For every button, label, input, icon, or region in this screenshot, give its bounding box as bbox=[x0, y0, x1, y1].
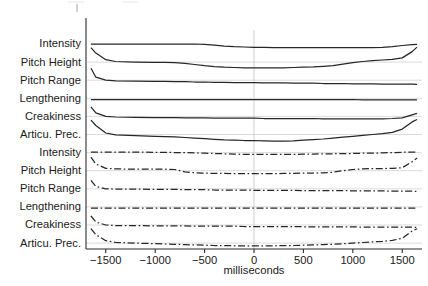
y-axis-label: Lengthening bbox=[19, 200, 81, 212]
x-axis-tick-label: −500 bbox=[192, 254, 217, 266]
x-axis-tick-label: 1000 bbox=[340, 254, 365, 266]
x-axis-tick-label: −1000 bbox=[139, 254, 170, 266]
y-axis-label: Articu. Prec. bbox=[20, 237, 81, 249]
y-axis-label: Creakiness bbox=[25, 218, 81, 230]
y-axis-label: Pitch Height bbox=[21, 164, 82, 176]
y-axis-label: Pitch Range bbox=[20, 182, 81, 194]
figure-panel: IntensityPitch HeightPitch RangeLengthen… bbox=[0, 0, 428, 286]
y-axis-label: Pitch Height bbox=[21, 56, 82, 68]
y-axis-label: Lengthening bbox=[19, 92, 81, 104]
cropped-tick-artifact bbox=[76, 4, 78, 12]
y-axis-label: Pitch Range bbox=[20, 74, 81, 86]
y-axis-label: Creakiness bbox=[25, 110, 81, 122]
y-axis-label: Intensity bbox=[39, 146, 81, 158]
y-axis-label: Intensity bbox=[39, 37, 81, 49]
line-chart-svg: IntensityPitch HeightPitch RangeLengthen… bbox=[0, 0, 428, 286]
x-axis-tick-label: 500 bbox=[294, 254, 313, 266]
y-axis-labels-group: IntensityPitch HeightPitch RangeLengthen… bbox=[19, 37, 81, 248]
y-axis-label: Articu. Prec. bbox=[20, 128, 81, 140]
x-axis-tick-label: 1500 bbox=[390, 254, 415, 266]
x-axis-title: milliseconds bbox=[224, 264, 285, 276]
x-axis-tick-label: −1500 bbox=[90, 254, 121, 266]
